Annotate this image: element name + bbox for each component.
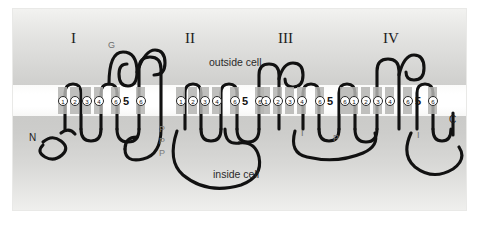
glycosylation-marker-d1: G xyxy=(108,41,115,50)
segment-badge-d1-3: 3 xyxy=(82,96,92,106)
segment-badge-d4-1: 1 xyxy=(349,96,359,106)
n-terminal-tail xyxy=(40,138,66,159)
domain3-loop-45 xyxy=(355,129,377,142)
domain2-loop-45 xyxy=(237,129,259,142)
segment-badge-d3-2: 2 xyxy=(273,96,283,106)
domain1-extracellular-g-loop xyxy=(109,52,137,86)
inactivation-marker-d3: I xyxy=(301,129,304,138)
segment-badge-d2-2: 2 xyxy=(188,96,198,106)
segment-badge-d2-3: 3 xyxy=(200,96,210,106)
domain-label-3: III xyxy=(278,31,293,46)
segment-badge-d3-1: 1 xyxy=(261,96,271,106)
domain-label-2: II xyxy=(185,31,195,46)
phosphorylation-marker-d2-3: P xyxy=(159,149,165,158)
pore-label-d4: 5 xyxy=(415,96,421,107)
domain4-loop-23 xyxy=(433,129,451,141)
pore-label-d1: 5 xyxy=(123,96,129,107)
phosphorylation-marker-d2-2: P xyxy=(159,137,165,146)
pore-label-d3: 5 xyxy=(327,96,333,107)
domain-label-1: I xyxy=(71,31,76,46)
inside-cell-label: inside cell xyxy=(213,169,259,180)
segment-badge-d4-4: 4 xyxy=(385,96,395,106)
segment-badge-d2-6a: 6 xyxy=(230,96,240,106)
segment-badge-d1-6b: 6 xyxy=(136,96,146,106)
channel-topology-figure: 1 2 3 4 6 6 5 1 2 3 4 6 6 5 1 2 3 4 6 6 … xyxy=(0,0,480,225)
segment-badge-d2-1: 1 xyxy=(176,96,186,106)
phosphorylation-marker-d3: P xyxy=(333,134,339,143)
segment-badge-d4-6a: 6 xyxy=(403,96,413,106)
segment-badge-d1-1: 1 xyxy=(58,96,68,106)
segment-badge-d3-3: 3 xyxy=(285,96,295,106)
segment-badge-d4-6b: 6 xyxy=(428,96,438,106)
pore-label-d2: 5 xyxy=(242,96,248,107)
phosphorylation-marker-d2-1: P xyxy=(159,125,165,134)
figure-panel: 1 2 3 4 6 6 5 1 2 3 4 6 6 5 1 2 3 4 6 6 … xyxy=(13,9,466,210)
outside-cell-label: outside cell xyxy=(209,57,262,68)
domain1-loop-23 xyxy=(81,129,101,141)
segment-badge-d2-4: 4 xyxy=(212,96,222,106)
segment-badge-d1-6a: 6 xyxy=(111,96,121,106)
segment-badge-d4-2: 2 xyxy=(361,96,371,106)
c-terminus-label: C xyxy=(449,115,456,125)
n-terminus-label: N xyxy=(29,133,36,143)
domain2-loop-23 xyxy=(201,129,221,141)
segment-badge-d3-6a: 6 xyxy=(315,96,325,106)
segment-badge-d3-4: 4 xyxy=(297,96,307,106)
segment-badge-d1-2: 2 xyxy=(70,96,80,106)
linker-1-2 xyxy=(125,129,161,160)
domain3-pore-loop xyxy=(399,55,424,80)
segment-badge-d4-3: 3 xyxy=(373,96,383,106)
inactivation-marker-d4: I xyxy=(417,131,420,140)
domain-label-4: IV xyxy=(383,31,399,46)
segment-badge-d1-4: 4 xyxy=(94,96,104,106)
domain2-pore-loop xyxy=(279,63,303,87)
